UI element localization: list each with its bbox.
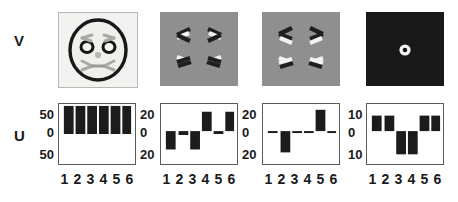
bar-chart-unit-response-strokes-a bbox=[160, 103, 238, 165]
xtick: 5 bbox=[314, 172, 327, 186]
xtick: 1 bbox=[262, 172, 275, 186]
ytick-chart2-mid: 0 bbox=[140, 126, 147, 139]
xtick: 4 bbox=[97, 172, 110, 186]
xtick: 5 bbox=[110, 172, 123, 186]
xaxis-labels-chart4: 1 2 3 4 5 6 bbox=[366, 172, 444, 186]
stimulus-face-photo bbox=[58, 12, 138, 88]
stimulus-center-ring-dark bbox=[366, 12, 444, 86]
xaxis-labels-chart2: 1 2 3 4 5 6 bbox=[160, 172, 238, 186]
bar-series bbox=[372, 116, 440, 155]
row-label-u: U bbox=[14, 128, 25, 143]
xtick: 5 bbox=[212, 172, 225, 186]
bar-chart-unit-response-strokes-b bbox=[262, 103, 340, 165]
face-icon bbox=[59, 13, 137, 87]
ytick-chart1-top: 50 bbox=[30, 108, 54, 121]
xtick: 3 bbox=[84, 172, 97, 186]
xtick: 4 bbox=[199, 172, 212, 186]
xtick: 1 bbox=[160, 172, 173, 186]
stimulus-strokes-light-over-dark bbox=[262, 12, 340, 86]
oriented-bars-inverted-icon bbox=[262, 12, 340, 86]
chart-plot-area bbox=[263, 104, 339, 164]
xtick: 2 bbox=[379, 172, 392, 186]
bar-series bbox=[268, 110, 336, 153]
chart-plot-area bbox=[161, 104, 237, 164]
xtick: 3 bbox=[288, 172, 301, 186]
oriented-bars-icon bbox=[160, 12, 238, 86]
bar-chart-unit-response-center-dot bbox=[366, 103, 444, 165]
xtick: 6 bbox=[327, 172, 340, 186]
chart-plot-area bbox=[367, 104, 443, 164]
ytick-chart2-top: 20 bbox=[140, 108, 154, 121]
ytick-chart3-mid: 0 bbox=[242, 126, 249, 139]
xaxis-labels-chart1: 1 2 3 4 5 6 bbox=[58, 172, 136, 186]
xtick: 2 bbox=[275, 172, 288, 186]
xtick: 3 bbox=[392, 172, 405, 186]
xtick: 1 bbox=[366, 172, 379, 186]
figure-panel: V U bbox=[0, 0, 458, 202]
xtick: 6 bbox=[123, 172, 136, 186]
xaxis-labels-chart3: 1 2 3 4 5 6 bbox=[262, 172, 340, 186]
xtick: 5 bbox=[418, 172, 431, 186]
bar-series bbox=[64, 106, 131, 134]
xtick: 4 bbox=[301, 172, 314, 186]
row-label-v: V bbox=[14, 33, 24, 48]
xtick: 3 bbox=[186, 172, 199, 186]
xtick: 6 bbox=[431, 172, 444, 186]
ytick-chart4-mid: 0 bbox=[348, 126, 355, 139]
bar-chart-unit-response-face bbox=[58, 103, 136, 165]
xtick: 6 bbox=[225, 172, 238, 186]
bar-series bbox=[166, 112, 234, 150]
xtick: 2 bbox=[71, 172, 84, 186]
ytick-chart1-mid: 0 bbox=[30, 126, 54, 139]
ytick-chart3-top: 20 bbox=[242, 108, 256, 121]
xtick: 4 bbox=[405, 172, 418, 186]
stimulus-strokes-dark-over-light bbox=[160, 12, 238, 86]
ytick-chart4-bottom: 10 bbox=[348, 148, 362, 161]
xtick: 1 bbox=[58, 172, 71, 186]
chart-plot-area bbox=[59, 104, 135, 164]
ytick-chart4-top: 10 bbox=[348, 108, 362, 121]
xtick: 2 bbox=[173, 172, 186, 186]
ytick-chart3-bottom: 20 bbox=[242, 148, 256, 161]
center-dot-icon bbox=[366, 12, 444, 86]
ytick-chart2-bottom: 20 bbox=[140, 148, 154, 161]
ytick-chart1-bottom: 50 bbox=[26, 148, 54, 161]
